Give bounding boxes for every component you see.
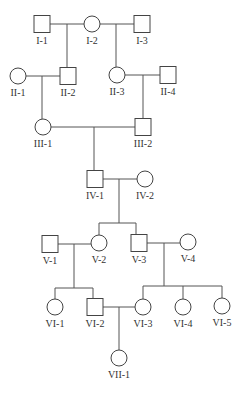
individual-label: III-2 — [134, 138, 152, 149]
individual-label: V-2 — [92, 254, 107, 265]
individual-label: VI-5 — [213, 317, 232, 328]
individual-ii-3: II-3 — [109, 67, 125, 97]
individual-ii-2: II-2 — [60, 68, 76, 99]
individual-v-1: V-1 — [42, 236, 58, 267]
individual-label: VII-1 — [108, 369, 130, 380]
female-circle-icon — [180, 234, 196, 250]
individual-iv-2: IV-2 — [136, 171, 154, 201]
individual-vi-1: VI-1 — [46, 299, 65, 329]
individual-label: VI-1 — [46, 318, 65, 329]
individual-label: I-2 — [86, 35, 98, 46]
male-square-icon — [160, 67, 176, 84]
individual-iii-2: III-2 — [134, 119, 152, 150]
individual-label: IV-2 — [136, 190, 154, 201]
female-circle-icon — [47, 299, 63, 315]
female-circle-icon — [137, 171, 153, 187]
individual-label: V-3 — [132, 254, 147, 265]
individual-v-2: V-2 — [91, 235, 107, 265]
individual-v-4: V-4 — [180, 234, 196, 264]
male-square-icon — [60, 68, 76, 85]
individual-label: II-4 — [161, 86, 176, 97]
individual-label: VI-4 — [174, 318, 193, 329]
individual-label: II-3 — [110, 86, 125, 97]
individual-label: V-1 — [43, 255, 58, 266]
individual-vii-1: VII-1 — [108, 350, 130, 380]
female-circle-icon — [91, 235, 107, 251]
female-circle-icon — [214, 298, 230, 314]
individual-ii-1: II-1 — [10, 68, 26, 98]
male-square-icon — [42, 236, 58, 253]
female-circle-icon — [111, 350, 127, 366]
individual-v-3: V-3 — [131, 235, 147, 266]
female-circle-icon — [109, 67, 125, 83]
female-circle-icon — [10, 68, 26, 84]
individual-vi-2: VI-2 — [86, 299, 105, 330]
individual-label: III-1 — [34, 138, 52, 149]
individual-label: II-1 — [11, 87, 26, 98]
individual-label: IV-1 — [86, 190, 104, 201]
individual-label: I-3 — [136, 35, 148, 46]
pedigree-diagram: I-1I-2I-3II-1II-2II-3II-4III-1III-2IV-1I… — [0, 0, 241, 396]
individual-i-1: I-1 — [34, 16, 50, 47]
individual-vi-3: VI-3 — [134, 299, 153, 329]
individual-vi-5: VI-5 — [213, 298, 232, 328]
individual-label: VI-3 — [134, 318, 153, 329]
female-circle-icon — [84, 16, 100, 32]
individual-label: II-2 — [61, 87, 76, 98]
individual-i-3: I-3 — [134, 16, 150, 47]
individual-i-2: I-2 — [84, 16, 100, 46]
individual-label: VI-2 — [86, 318, 105, 329]
female-circle-icon — [135, 299, 151, 315]
male-square-icon — [131, 235, 147, 252]
female-circle-icon — [35, 119, 51, 135]
male-square-icon — [87, 171, 103, 188]
individual-label: I-1 — [36, 35, 48, 46]
male-square-icon — [34, 16, 50, 33]
male-square-icon — [135, 119, 151, 136]
individual-label: V-4 — [181, 253, 196, 264]
female-circle-icon — [175, 299, 191, 315]
individual-vi-4: VI-4 — [174, 299, 193, 329]
male-square-icon — [87, 299, 103, 316]
individuals: I-1I-2I-3II-1II-2II-3II-4III-1III-2IV-1I… — [10, 16, 231, 381]
male-square-icon — [134, 16, 150, 33]
individual-iv-1: IV-1 — [86, 171, 104, 202]
individual-iii-1: III-1 — [34, 119, 52, 149]
individual-ii-4: II-4 — [160, 67, 176, 98]
